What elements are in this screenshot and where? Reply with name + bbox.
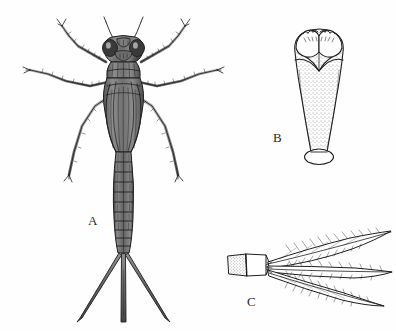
head — [103, 36, 145, 63]
terminal-abdominal-segments — [228, 254, 269, 276]
plate-artwork — [0, 0, 396, 331]
labium-hinge — [305, 149, 334, 165]
figure-label-a: A — [88, 213, 98, 229]
illustration-plate: A B C — [0, 0, 396, 331]
abdomen — [113, 152, 133, 253]
prothorax — [107, 62, 140, 78]
figure-label-b: B — [273, 130, 282, 146]
figure-label-c: C — [247, 294, 256, 310]
